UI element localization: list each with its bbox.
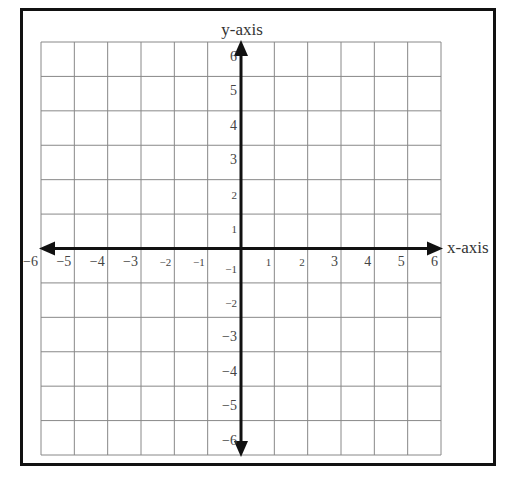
x-tick-label: 1 bbox=[266, 256, 272, 268]
x-tick-label: 2 bbox=[299, 256, 305, 268]
y-tick-label: 1 bbox=[232, 223, 238, 235]
y-tick-label: 2 bbox=[232, 189, 238, 201]
x-tick-label: −1 bbox=[193, 256, 205, 268]
y-tick-label: −3 bbox=[222, 329, 237, 344]
y-tick-label: −6 bbox=[222, 433, 237, 448]
x-tick-label: 6 bbox=[431, 254, 438, 269]
x-tick-label: −5 bbox=[56, 254, 71, 269]
x-tick-label: −4 bbox=[90, 254, 105, 269]
y-tick-label: 6 bbox=[230, 49, 237, 64]
x-axis-label: x-axis bbox=[447, 238, 489, 257]
x-tick-label: −2 bbox=[160, 256, 172, 268]
axes bbox=[39, 40, 443, 457]
x-tick-label: −6 bbox=[23, 254, 38, 269]
coordinate-plane: −6−5−4−3−2−1123456 654321−1−2−3−4−5−6 y-… bbox=[0, 0, 515, 490]
y-tick-label: 3 bbox=[230, 152, 237, 167]
y-axis-label: y-axis bbox=[221, 20, 263, 39]
x-tick-label: 3 bbox=[331, 254, 338, 269]
y-tick-label: −4 bbox=[222, 364, 237, 379]
y-tick-label: 5 bbox=[230, 83, 237, 98]
y-tick-label: 4 bbox=[230, 118, 237, 133]
y-tick-label: −1 bbox=[225, 263, 237, 275]
y-tick-label: −5 bbox=[222, 398, 237, 413]
x-tick-label: 5 bbox=[398, 254, 405, 269]
x-tick-label: −3 bbox=[123, 254, 138, 269]
x-tick-label: 4 bbox=[364, 254, 371, 269]
y-tick-label: −2 bbox=[225, 297, 237, 309]
